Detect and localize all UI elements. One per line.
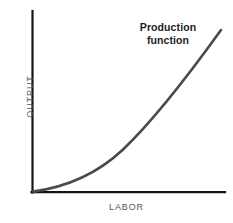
production-function-label: Production function (132, 21, 204, 47)
y-axis-label-wrapper: OUTPUT (0, 0, 32, 192)
production-function-label-line-1: Production (132, 21, 204, 34)
production-function-chart: OUTPUT LABOR Production function (0, 0, 233, 223)
x-axis-label: LABOR (0, 203, 233, 212)
y-axis-label: OUTPUT (26, 75, 35, 117)
production-function-curve (33, 30, 221, 192)
production-function-label-line-2: function (132, 34, 204, 47)
